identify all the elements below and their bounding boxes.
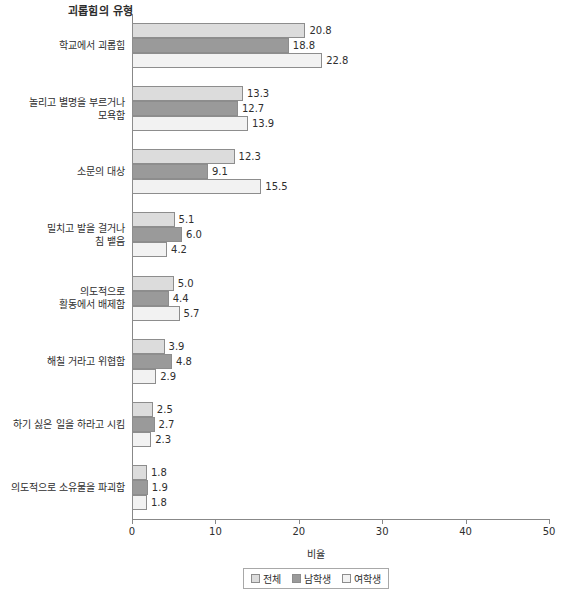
bar-group: 하기 싫은 일을 하라고 시킴2.52.72.3 <box>132 402 549 447</box>
x-axis-title-label: 비율 <box>249 549 325 560</box>
bar-value-label: 2.7 <box>155 417 175 432</box>
bar-여학생 <box>132 179 261 194</box>
bar-row: 2.9 <box>132 369 549 384</box>
bar-value-label: 2.5 <box>153 402 173 417</box>
bar-남학생 <box>132 417 155 432</box>
bar-row: 4.8 <box>132 354 549 369</box>
bar-row: 5.1 <box>132 212 549 227</box>
legend-label: 전체 <box>263 571 281 586</box>
bar-value-label: 18.8 <box>289 38 315 53</box>
x-axis-tick-label: 10 <box>209 526 222 537</box>
bar-남학생 <box>132 480 148 495</box>
legend-swatch-icon <box>342 574 351 583</box>
bullying-type-bar-chart: 괴롭힘의 유형 학교에서 괴롭힘20.818.822.8놀리고 별명을 부르거나… <box>0 0 573 606</box>
bar-여학생 <box>132 242 167 257</box>
category-label: 학교에서 괴롭힘 <box>59 39 125 52</box>
bar-전체 <box>132 339 165 354</box>
x-axis-tick <box>132 519 133 524</box>
bar-value-label: 13.9 <box>248 116 274 131</box>
bar-전체 <box>132 402 153 417</box>
bar-row: 20.8 <box>132 23 549 38</box>
bar-row: 6.0 <box>132 227 549 242</box>
bar-여학생 <box>132 53 322 68</box>
bar-row: 2.3 <box>132 432 549 447</box>
bar-여학생 <box>132 369 156 384</box>
bar-전체 <box>132 212 175 227</box>
bar-row: 22.8 <box>132 53 549 68</box>
bar-value-label: 5.7 <box>180 306 200 321</box>
bar-row: 5.7 <box>132 306 549 321</box>
category-label: 놀리고 별명을 부르거나모욕함 <box>29 96 125 122</box>
category-label: 밀치고 발을 걸거나침 뱉음 <box>47 222 125 248</box>
category-label: 소문의 대상 <box>77 165 125 178</box>
bar-row: 3.9 <box>132 339 549 354</box>
bar-value-label: 9.1 <box>208 164 228 179</box>
x-axis-title: 비율 <box>0 546 573 561</box>
x-axis-tick-label: 0 <box>129 526 135 537</box>
bar-value-label: 13.3 <box>243 86 269 101</box>
bar-value-label: 15.5 <box>261 179 287 194</box>
bar-value-label: 12.7 <box>238 101 264 116</box>
bar-value-label: 5.0 <box>174 276 194 291</box>
bar-남학생 <box>132 38 289 53</box>
chart-legend: 전체남학생여학생 <box>243 568 389 589</box>
bar-여학생 <box>132 495 147 510</box>
legend-item-남학생[interactable]: 남학생 <box>292 571 331 586</box>
x-axis-tick-label: 30 <box>376 526 389 537</box>
bar-전체 <box>132 23 305 38</box>
legend-item-전체[interactable]: 전체 <box>251 571 281 586</box>
bar-남학생 <box>132 354 172 369</box>
bar-전체 <box>132 465 147 480</box>
legend-label: 남학생 <box>304 571 331 586</box>
category-label: 의도적으로 소유물을 파괴함 <box>11 481 125 494</box>
bar-row: 9.1 <box>132 164 549 179</box>
bottom-caption <box>8 599 568 606</box>
category-label: 의도적으로활동에서 배제함 <box>59 285 125 311</box>
bar-row: 1.9 <box>132 480 549 495</box>
x-axis-tick <box>466 519 467 524</box>
bar-group: 의도적으로 소유물을 파괴함1.81.91.8 <box>132 465 549 510</box>
bar-row: 5.0 <box>132 276 549 291</box>
legend-swatch-icon <box>292 574 301 583</box>
x-axis-tick <box>382 519 383 524</box>
bar-value-label: 22.8 <box>322 53 348 68</box>
bar-전체 <box>132 149 235 164</box>
legend-item-여학생[interactable]: 여학생 <box>342 571 381 586</box>
bar-value-label: 4.8 <box>172 354 192 369</box>
bar-row: 2.5 <box>132 402 549 417</box>
bar-value-label: 5.1 <box>175 212 195 227</box>
bar-value-label: 3.9 <box>165 339 185 354</box>
x-axis-tick-label: 20 <box>292 526 305 537</box>
chart-title: 괴롭힘의 유형 <box>68 2 133 18</box>
bar-row: 13.3 <box>132 86 549 101</box>
bar-row: 12.7 <box>132 101 549 116</box>
bar-value-label: 4.4 <box>169 291 189 306</box>
bar-row: 2.7 <box>132 417 549 432</box>
bar-group: 소문의 대상12.39.115.5 <box>132 149 549 194</box>
category-label: 하기 싫은 일을 하라고 시킴 <box>13 418 125 431</box>
x-axis-tick <box>215 519 216 524</box>
bar-value-label: 20.8 <box>305 23 331 38</box>
bar-value-label: 1.8 <box>147 495 167 510</box>
x-axis-tick <box>549 519 550 524</box>
bar-row: 1.8 <box>132 495 549 510</box>
x-axis-line <box>132 519 550 520</box>
bar-전체 <box>132 276 174 291</box>
x-axis-tick-label: 50 <box>543 526 556 537</box>
bar-남학생 <box>132 101 238 116</box>
legend-label: 여학생 <box>354 571 381 586</box>
bar-group: 의도적으로활동에서 배제함5.04.45.7 <box>132 276 549 321</box>
bar-row: 4.2 <box>132 242 549 257</box>
bar-value-label: 2.9 <box>156 369 176 384</box>
bar-남학생 <box>132 227 182 242</box>
bar-여학생 <box>132 306 180 321</box>
legend-swatch-icon <box>251 574 260 583</box>
bar-row: 4.4 <box>132 291 549 306</box>
bar-value-label: 2.3 <box>151 432 171 447</box>
x-axis-tick-label: 40 <box>459 526 472 537</box>
bar-row: 1.8 <box>132 465 549 480</box>
bar-row: 15.5 <box>132 179 549 194</box>
bar-value-label: 6.0 <box>182 227 202 242</box>
bar-value-label: 12.3 <box>235 149 261 164</box>
bar-group: 놀리고 별명을 부르거나모욕함13.312.713.9 <box>132 86 549 131</box>
